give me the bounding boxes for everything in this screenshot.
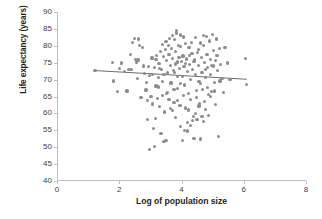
y-tick-mark	[54, 113, 57, 114]
data-point	[200, 115, 203, 118]
x-tick-mark	[244, 181, 245, 184]
data-point	[170, 47, 173, 50]
data-point	[181, 139, 184, 142]
y-tick-label: 40	[30, 177, 52, 185]
data-point	[169, 81, 172, 84]
data-point	[195, 96, 198, 99]
y-tick-label: 45	[30, 160, 52, 168]
x-tick-label: 0	[47, 186, 67, 194]
data-point	[209, 58, 212, 61]
data-point	[93, 69, 96, 72]
data-point	[192, 137, 195, 140]
data-point	[245, 83, 248, 86]
data-point	[161, 43, 164, 46]
data-point	[116, 90, 119, 93]
data-point	[199, 82, 202, 85]
data-point	[194, 112, 197, 115]
data-point	[206, 86, 209, 89]
y-tick-label: 80	[30, 42, 52, 50]
data-point	[213, 81, 216, 84]
data-point	[142, 64, 145, 67]
data-point	[187, 46, 190, 49]
data-point	[211, 33, 214, 36]
data-point	[164, 139, 167, 142]
data-point	[173, 71, 176, 74]
data-point	[176, 99, 179, 102]
data-point	[167, 53, 170, 56]
data-point	[180, 60, 183, 63]
data-point	[171, 34, 174, 37]
data-point	[158, 105, 161, 108]
y-tick-label: 55	[30, 126, 52, 134]
data-point	[176, 75, 179, 78]
data-point	[162, 55, 165, 58]
data-point	[215, 37, 218, 40]
data-point	[163, 110, 166, 113]
data-point	[179, 82, 182, 85]
data-point	[203, 100, 206, 103]
x-tick-mark	[57, 181, 58, 184]
data-point	[129, 68, 132, 71]
data-point	[167, 98, 170, 101]
data-point	[199, 137, 202, 140]
data-point	[187, 92, 190, 95]
data-point	[181, 75, 184, 78]
data-point	[204, 68, 207, 71]
data-point	[112, 79, 115, 82]
data-point	[208, 39, 211, 42]
data-point	[164, 40, 167, 43]
data-point	[156, 97, 159, 100]
data-point	[222, 91, 225, 94]
y-axis-title: Life expectancy (years)	[19, 0, 28, 125]
data-point	[177, 56, 180, 59]
data-point	[172, 101, 175, 104]
data-point	[161, 94, 164, 97]
data-point	[152, 127, 155, 130]
data-point	[145, 81, 148, 84]
data-point	[143, 72, 146, 75]
data-point	[118, 67, 121, 70]
x-tick-label: 6	[234, 186, 254, 194]
data-point	[188, 63, 191, 66]
data-point	[136, 58, 139, 61]
data-point	[133, 37, 136, 40]
y-tick-mark	[54, 97, 57, 98]
y-tick-label: 75	[30, 59, 52, 67]
data-point	[171, 57, 174, 60]
data-point	[191, 68, 194, 71]
data-point	[136, 77, 139, 80]
data-point	[244, 57, 247, 60]
plot-area	[57, 12, 306, 181]
data-point	[203, 61, 206, 64]
data-point	[175, 31, 178, 34]
data-point	[192, 115, 195, 118]
data-point	[176, 60, 179, 63]
x-tick-mark	[306, 181, 307, 184]
data-point	[196, 51, 199, 54]
data-point	[178, 67, 181, 70]
data-point	[154, 117, 157, 120]
data-point	[168, 37, 171, 40]
data-point	[147, 65, 150, 68]
data-point	[191, 119, 194, 122]
y-tick-label: 50	[30, 143, 52, 151]
data-point	[214, 103, 217, 106]
data-point	[228, 78, 231, 81]
data-point	[179, 125, 182, 128]
data-point	[218, 79, 221, 82]
data-point	[149, 95, 152, 98]
data-point	[137, 37, 140, 40]
data-point	[219, 63, 222, 66]
data-point	[197, 48, 200, 51]
y-tick-label: 70	[30, 76, 52, 84]
trend-line	[94, 70, 247, 80]
data-point	[173, 38, 176, 41]
x-tick-mark	[119, 181, 120, 184]
data-point	[189, 78, 192, 81]
data-point	[178, 104, 181, 107]
data-point	[209, 95, 212, 98]
data-point	[162, 73, 165, 76]
data-point	[172, 88, 175, 91]
data-point	[202, 44, 205, 47]
y-tick-mark	[54, 147, 57, 148]
